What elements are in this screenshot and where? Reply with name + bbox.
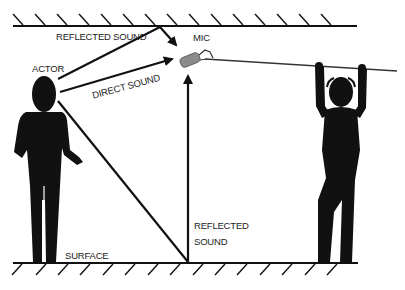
label-reflected-sound-floor-2: SOUND <box>194 236 227 247</box>
label-mic: MIC <box>193 32 210 43</box>
reflected-ceiling-path-outgoing <box>160 27 176 45</box>
sound-paths <box>58 27 188 262</box>
reflected-floor-path-incoming <box>58 101 188 262</box>
boom-pole <box>205 59 397 71</box>
floor-surface <box>12 263 358 275</box>
label-actor: ACTOR <box>32 63 64 74</box>
ceiling-surface <box>13 14 357 26</box>
label-surface: SURFACE <box>65 250 108 261</box>
label-reflected-sound-floor-1: REFLECTED <box>194 220 249 231</box>
boom-operator-figure <box>315 62 367 262</box>
actor-figure <box>14 76 83 262</box>
label-reflected-sound-top: REFLECTED SOUND <box>56 31 146 42</box>
